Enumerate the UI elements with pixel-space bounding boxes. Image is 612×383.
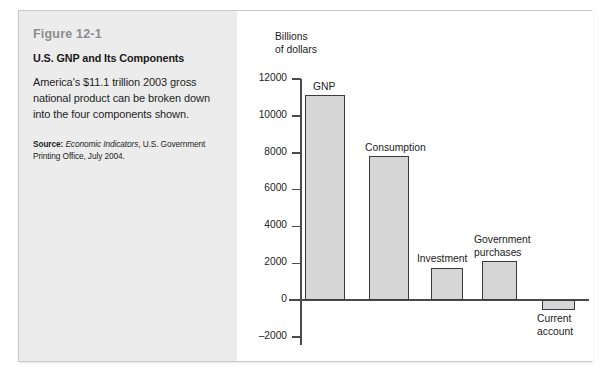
bar-label-investment: Investment: [417, 253, 467, 266]
figure-number: Figure 12-1: [33, 27, 223, 41]
y-tick-mark: [292, 226, 301, 228]
bar-label-current-account: Current account: [537, 313, 573, 338]
y-tick-mark: [292, 189, 301, 191]
bar-label-gnp: GNP: [313, 81, 335, 94]
y-tick-mark: [292, 115, 301, 117]
y-tick-mark: [292, 336, 301, 338]
y-tick-mark: [292, 152, 301, 154]
figure-description: America's $11.1 trillion 2003 gross nati…: [33, 74, 223, 122]
y-tick-label: 4000: [241, 219, 287, 230]
plot-area: 120001000080006000400020000–2000 GNPCons…: [237, 11, 593, 361]
bar-investment: [431, 268, 463, 300]
y-tick-label: 10000: [241, 109, 287, 120]
y-tick-mark: [292, 78, 301, 80]
y-axis-line: [300, 79, 302, 345]
y-tick-label: 2000: [241, 256, 287, 267]
caption-panel: Figure 12-1 U.S. GNP and Its Components …: [19, 11, 237, 361]
figure-source: Source: Economic Indicators, U.S. Govern…: [33, 138, 223, 162]
source-publication: Economic Indicators: [65, 139, 138, 149]
y-tick-label: 6000: [241, 182, 287, 193]
bar-gnp: [305, 95, 345, 300]
y-tick-mark: [292, 263, 301, 265]
source-label: Source:: [33, 139, 63, 149]
figure-title: U.S. GNP and Its Components: [33, 52, 223, 64]
bar-label-consumption: Consumption: [365, 142, 426, 155]
bar-current-account: [542, 300, 575, 310]
bar-label-government-purchases: Government purchases: [474, 234, 531, 259]
y-tick-label: –2000: [241, 330, 287, 341]
y-tick-label: 8000: [241, 146, 287, 157]
y-tick-label: 12000: [241, 72, 287, 83]
y-tick-label: 0: [241, 293, 287, 304]
y-tick-mark: [292, 300, 301, 302]
bar-government-purchases: [482, 261, 517, 300]
bar-consumption: [369, 156, 409, 300]
chart-panel: Billions of dollars 12000100008000600040…: [237, 11, 593, 361]
figure-container: Figure 12-1 U.S. GNP and Its Components …: [18, 10, 592, 362]
